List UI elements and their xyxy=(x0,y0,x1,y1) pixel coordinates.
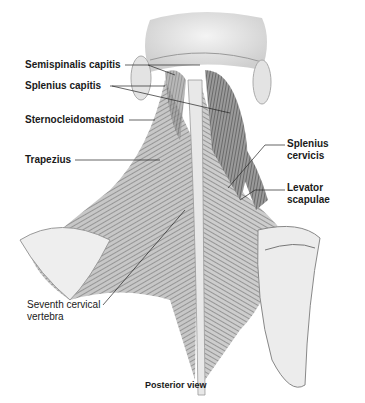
label-splenius-cervicis-line1: Splenius xyxy=(287,138,329,150)
label-levator-scapulae-line1: Levator xyxy=(287,182,323,194)
label-levator-scapulae-line2: scapulae xyxy=(287,194,330,206)
label-trapezius: Trapezius xyxy=(25,154,71,166)
right-ear xyxy=(253,60,271,104)
label-seventh-cervical-line1: Seventh cervical xyxy=(27,299,100,311)
left-ear xyxy=(131,56,151,100)
label-sternocleidomastoid: Sternocleidomastoid xyxy=(25,114,124,126)
label-seventh-cervical-line2: vertebra xyxy=(27,311,64,323)
label-semispinalis-capitis: Semispinalis capitis xyxy=(25,59,121,71)
label-splenius-capitis: Splenius capitis xyxy=(25,80,101,92)
skull xyxy=(145,12,267,72)
label-splenius-cervicis-line2: cervicis xyxy=(287,150,324,162)
right-scapula xyxy=(258,226,320,387)
view-caption: Posterior view xyxy=(145,380,207,390)
